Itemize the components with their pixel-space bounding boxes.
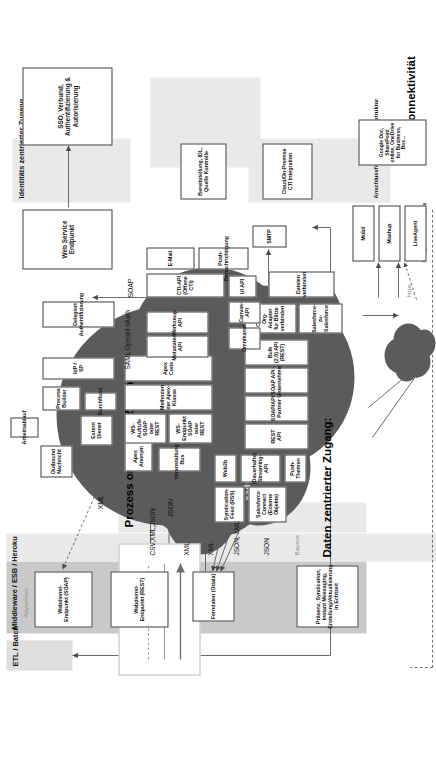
protocol-label-saml-openid-oauth: SAML OpenId oAuth [124,310,131,369]
box-provisioning-idl[interactable]: Bereitstellung, IDL, Quelle Kontrolle [180,143,226,199]
zone-title-data-centric: Daten zentrierter Zugang: [320,417,332,557]
box-webservice-endpoint-rest[interactable]: Webdienst-Endpunkt (REST) [110,571,168,627]
protocol-label-https: https [404,284,411,297]
box-push-topics[interactable]: Push-Themen [284,454,306,482]
box-apex-anonymous[interactable]: Apex Anonym [124,441,152,471]
protocol-label-json-1: JSON [262,538,269,555]
box-cti-api[interactable]: CTI-API (Offene CTI) [146,273,224,297]
box-rest-api[interactable]: REST API [244,423,308,449]
box-sso-federation[interactable]: SSO, Verbund, Authentifizierung & Autori… [22,67,112,145]
box-workflow[interactable]: Arbeitsablauf [10,417,38,437]
legend-async-label: Asynchron [21,588,28,617]
box-web-service-endpoint[interactable]: Web Service Endpunkt [22,209,112,269]
protocol-label-csv-xml-json: CSV,XML,JSON [148,508,155,555]
zone-title-etl-batch: ETL / Batch [10,625,19,666]
box-apex-class-methods[interactable]: Methoden der Apex-Klasse [124,384,212,410]
box-streaming-api[interactable]: (Dauerhafte) Streaming-API [240,454,280,482]
box-metadata-api[interactable]: Metadaten-API [146,335,208,357]
box-flow[interactable]: Durchfluss [84,392,116,410]
box-connect-files[interactable]: Dateien verbinden [268,271,334,297]
box-external-service[interactable]: Extern Dienst [80,415,112,445]
box-process-builder[interactable]: Process Builder [42,386,80,410]
box-email[interactable]: E-Mail [146,247,194,269]
box-canvas-api[interactable]: Canvas-API [228,301,260,323]
box-tooling-api[interactable]: Werkzeug-API [146,311,208,333]
box-delegated-auth[interactable]: Delegiert Authentifizierung [42,301,114,327]
box-presence-syndication[interactable]: Präsenz, Syndication, Instant Messaging,… [296,565,358,627]
protocol-label-json-xml: JSON, XML [232,521,239,555]
box-soap-api-enterprise[interactable]: SOAP API - Unternehmen [244,367,308,393]
box-ws-callout[interactable]: WS-Aufrufe SOAP oder REST [124,413,166,443]
box-outbound-message[interactable]: Outbound Nachricht [40,445,72,477]
box-ui-api[interactable]: UI API [228,275,256,297]
box-cloud-services[interactable]: Google Doc, SharePoint online, OneDrive … [358,119,426,165]
box-app-mashup[interactable]: Mashup [378,205,400,261]
box-web2b[interactable]: Web2b [214,454,236,482]
box-soap-api-partner[interactable]: SOAP/API Partner [244,395,308,421]
box-salesforce-to-salesforce[interactable]: Salesforce-zu-Salesforce [298,303,342,333]
box-app-liveagent[interactable]: LiveAgent [404,205,426,261]
box-idp-sp[interactable]: IdP / SP [42,357,114,379]
box-smtp[interactable]: SMTP [252,225,286,247]
box-push-notification[interactable]: Push-Benachrichtigung [198,247,248,269]
protocol-label-xml-2: XML [182,542,189,555]
protocol-label-xml-1: XML [206,542,213,555]
zone-title-middleware: Middleware / ESB / Heroku [9,536,18,629]
protocol-label-xml-3: XML [96,495,103,509]
box-ws-endpoint[interactable]: WS-Endpunkt SOAP oder REST [168,413,212,443]
box-salesforce-connect[interactable]: Salesforce Connect (Externe Objekte) [248,486,286,522]
protocol-label-bayeux: Bayeux [292,534,299,555]
cloud-services-cloud-icon [378,315,436,385]
box-app-mobil[interactable]: Mobil [352,205,374,261]
protocol-label-soap: SOAP [126,278,133,297]
box-omnichannel[interactable]: Omnikanal [228,327,260,349]
box-apex-code[interactable]: Apex Code [124,355,212,381]
box-syndication-feed[interactable]: Syndication-Feed (RSS) [214,486,244,522]
box-webservice-endpoint-soap[interactable]: Webdienst-Endpunkt (SOAP) [34,571,92,627]
box-event-bus[interactable]: Veranstaltungs-Bus [158,447,200,471]
protocol-label-json-2: JSON [166,498,173,517]
box-remote-data-odata[interactable]: Ferndaten (Odata) [192,571,234,621]
box-cti-integration[interactable]: Cloud/On-Premise CTI Integration [262,143,312,199]
